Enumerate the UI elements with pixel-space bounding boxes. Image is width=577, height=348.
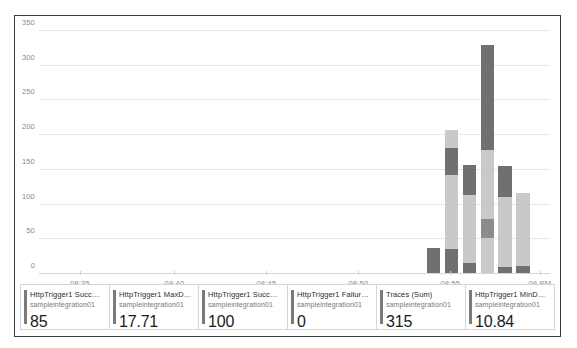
legend-card-title: HttpTrigger1 MinDura... <box>475 290 548 300</box>
gridline-200 <box>39 134 550 135</box>
legend-card-title: HttpTrigger1 MaxDura... <box>119 290 192 300</box>
bar-3-segment-1 <box>481 219 494 238</box>
bar-1-segment-0 <box>445 249 458 274</box>
bar-3-segment-0 <box>481 238 494 274</box>
legend-card-3[interactable]: HttpTrigger1 Failure...sampleintegration… <box>288 284 377 330</box>
legend-card-title: HttpTrigger1 Success... <box>30 290 103 300</box>
legend-card-resource: sampleintegration01 <box>119 300 192 310</box>
legend-card-resource: sampleintegration01 <box>208 300 281 310</box>
bar-3-segment-3 <box>481 45 494 151</box>
y-tick-label-50: 50 <box>26 226 35 235</box>
bar-3[interactable] <box>481 45 494 274</box>
legend-card-accent-bar <box>469 290 472 324</box>
x-axis-rule <box>39 273 550 274</box>
bar-2-segment-1 <box>463 195 476 263</box>
y-tick-label-150: 150 <box>22 156 35 165</box>
bar-3-segment-2 <box>481 150 494 219</box>
x-tick-mark-5 <box>540 271 541 275</box>
chart-region: 050100150200250300350 08:3508:4008:4508:… <box>15 16 560 286</box>
y-tick-label-350: 350 <box>22 17 35 26</box>
x-tick-mark-4 <box>450 271 451 275</box>
y-tick-label-300: 300 <box>22 52 35 61</box>
legend-card-value: 10.84 <box>475 312 548 330</box>
legend-card-title: HttpTrigger1 Success... <box>208 290 281 300</box>
metrics-chart-panel: 050100150200250300350 08:3508:4008:4508:… <box>14 15 561 337</box>
legend-card-value: 0 <box>297 312 370 330</box>
legend-card-value: 17.71 <box>119 312 192 330</box>
legend-cards: HttpTrigger1 Success...sampleintegration… <box>15 284 560 336</box>
bar-0[interactable] <box>427 248 440 274</box>
bar-4-segment-2 <box>498 166 511 197</box>
gridline-300 <box>39 65 550 66</box>
legend-card-accent-bar <box>291 290 294 324</box>
legend-card-resource: sampleintegration01 <box>30 300 103 310</box>
bar-1-segment-2 <box>445 148 458 176</box>
legend-card-resource: sampleintegration01 <box>297 300 370 310</box>
plot-area: 050100150200250300350 08:3508:4008:4508:… <box>39 24 550 274</box>
legend-card-value: 315 <box>386 312 459 330</box>
legend-card-title: HttpTrigger1 Failure... <box>297 290 370 300</box>
bar-2-segment-2 <box>463 165 476 195</box>
gridline-350 <box>39 30 550 31</box>
legend-card-resource: sampleintegration01 <box>386 300 459 310</box>
legend-card-resource: sampleintegration01 <box>475 300 548 310</box>
gridline-250 <box>39 99 550 100</box>
bar-5[interactable] <box>516 193 529 274</box>
y-tick-label-250: 250 <box>22 87 35 96</box>
bar-1-segment-3 <box>445 130 458 148</box>
bar-1-segment-1 <box>445 175 458 249</box>
legend-card-accent-bar <box>380 290 383 324</box>
bar-4[interactable] <box>498 166 511 274</box>
x-tick-mark-1 <box>174 271 175 275</box>
legend-card-accent-bar <box>202 290 205 324</box>
legend-card-0[interactable]: HttpTrigger1 Success...sampleintegration… <box>20 284 110 330</box>
bar-2[interactable] <box>463 165 476 274</box>
legend-card-accent-bar <box>113 290 116 324</box>
x-tick-mark-2 <box>266 271 267 275</box>
y-tick-label-200: 200 <box>22 122 35 131</box>
legend-card-accent-bar <box>24 290 27 324</box>
legend-card-5[interactable]: HttpTrigger1 MinDura...sampleintegration… <box>466 284 555 330</box>
bar-5-segment-1 <box>516 193 529 265</box>
legend-card-value: 85 <box>30 312 103 330</box>
legend-card-4[interactable]: Traces (Sum)sampleintegration01315 <box>377 284 466 330</box>
x-tick-mark-3 <box>358 271 359 275</box>
y-tick-label-0: 0 <box>31 261 35 270</box>
legend-card-title: Traces (Sum) <box>386 290 459 300</box>
bar-4-segment-1 <box>498 197 511 267</box>
x-tick-mark-0 <box>80 271 81 275</box>
bar-1[interactable] <box>445 130 458 274</box>
bar-0-segment-0 <box>427 248 440 274</box>
legend-card-value: 100 <box>208 312 281 330</box>
legend-card-2[interactable]: HttpTrigger1 Success...sampleintegration… <box>199 284 288 330</box>
legend-card-1[interactable]: HttpTrigger1 MaxDura...sampleintegration… <box>110 284 199 330</box>
y-tick-label-100: 100 <box>22 191 35 200</box>
